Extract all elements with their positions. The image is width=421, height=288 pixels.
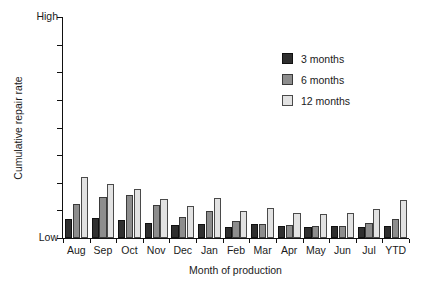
bar-may-6-months[interactable]	[312, 226, 319, 238]
bar-sep-6-months[interactable]	[99, 197, 106, 238]
bar-aug-3-months[interactable]	[65, 219, 72, 238]
x-tick-label-sep: Sep	[90, 244, 117, 256]
x-tick-label-feb: Feb	[223, 244, 250, 256]
x-tick-mark	[356, 239, 357, 243]
bar-jul-12-months[interactable]	[373, 209, 380, 238]
bar-mar-3-months[interactable]	[251, 224, 258, 238]
bar-may-12-months[interactable]	[320, 214, 327, 238]
bar-jan-3-months[interactable]	[198, 224, 205, 238]
x-tick-mark	[249, 239, 250, 243]
legend-label: 12 months	[301, 95, 350, 107]
y-tick-mark	[57, 128, 62, 129]
bar-group-mar	[251, 17, 274, 238]
x-tick-label-jun: Jun	[329, 244, 356, 256]
bar-jan-12-months[interactable]	[214, 198, 221, 238]
bar-ytd-3-months[interactable]	[384, 226, 391, 238]
x-tick-label-jan: Jan	[196, 244, 223, 256]
legend-label: 6 months	[301, 74, 344, 86]
legend-swatch-12-months	[282, 95, 293, 106]
legend-swatch-3-months	[282, 53, 293, 64]
bar-aug-12-months[interactable]	[81, 177, 88, 238]
bar-dec-6-months[interactable]	[179, 217, 186, 238]
bar-group-nov	[145, 17, 168, 238]
bar-sep-12-months[interactable]	[107, 184, 114, 238]
legend-item-6-months[interactable]: 6 months	[282, 71, 392, 88]
x-tick-mark	[409, 239, 410, 243]
bar-ytd-6-months[interactable]	[392, 219, 399, 238]
y-tick-mark	[57, 210, 62, 211]
bar-jun-6-months[interactable]	[339, 226, 346, 238]
bar-aug-6-months[interactable]	[73, 204, 80, 238]
x-tick-mark	[382, 239, 383, 243]
chart-legend: 3 months6 months12 months	[282, 50, 392, 113]
x-tick-mark	[329, 239, 330, 243]
x-axis-title: Month of production	[62, 264, 409, 276]
x-tick-label-apr: Apr	[276, 244, 303, 256]
y-axis-title: Cumulative repair rate	[12, 17, 24, 239]
x-tick-mark	[63, 239, 64, 243]
bar-group-jan	[198, 17, 221, 238]
repair-rate-bar-chart: Cumulative repair rate High Low AugSepOc…	[0, 0, 421, 288]
legend-swatch-6-months	[282, 74, 293, 85]
y-axis-high-label: High	[26, 10, 58, 22]
x-tick-mark	[116, 239, 117, 243]
y-tick-mark	[57, 155, 62, 156]
bar-apr-6-months[interactable]	[286, 225, 293, 238]
bar-nov-3-months[interactable]	[145, 223, 152, 238]
bar-feb-3-months[interactable]	[225, 227, 232, 238]
x-axis-line	[62, 238, 409, 239]
bar-nov-6-months[interactable]	[153, 205, 160, 238]
x-tick-mark	[143, 239, 144, 243]
bar-jul-6-months[interactable]	[365, 223, 372, 238]
bar-group-dec	[171, 17, 194, 238]
bar-may-3-months[interactable]	[304, 227, 311, 238]
bar-jul-3-months[interactable]	[358, 227, 365, 238]
bar-jun-12-months[interactable]	[347, 213, 354, 238]
bar-dec-12-months[interactable]	[187, 206, 194, 238]
x-tick-label-dec: Dec	[169, 244, 196, 256]
x-tick-mark	[196, 239, 197, 243]
y-tick-mark	[57, 17, 62, 18]
x-tick-mark	[169, 239, 170, 243]
x-tick-label-jul: Jul	[356, 244, 383, 256]
bar-apr-12-months[interactable]	[293, 213, 300, 238]
bar-group-oct	[118, 17, 141, 238]
x-tick-label-aug: Aug	[63, 244, 90, 256]
bar-ytd-12-months[interactable]	[400, 200, 407, 238]
bar-oct-6-months[interactable]	[126, 195, 133, 238]
x-tick-label-nov: Nov	[143, 244, 170, 256]
x-tick-mark	[303, 239, 304, 243]
bar-oct-3-months[interactable]	[118, 220, 125, 238]
bar-mar-12-months[interactable]	[267, 208, 274, 238]
bar-mar-6-months[interactable]	[259, 224, 266, 238]
bar-nov-12-months[interactable]	[160, 199, 167, 238]
x-tick-mark	[223, 239, 224, 243]
bar-group-aug	[65, 17, 88, 238]
x-tick-mark	[276, 239, 277, 243]
x-tick-label-oct: Oct	[116, 244, 143, 256]
x-tick-label-may: May	[303, 244, 330, 256]
y-tick-mark	[57, 100, 62, 101]
y-tick-mark	[57, 72, 62, 73]
bar-group-feb	[225, 17, 248, 238]
y-axis-low-label: Low	[26, 231, 58, 243]
legend-label: 3 months	[301, 53, 344, 65]
y-tick-mark	[57, 183, 62, 184]
bar-jan-6-months[interactable]	[206, 211, 213, 238]
bar-apr-3-months[interactable]	[278, 226, 285, 238]
bar-feb-12-months[interactable]	[240, 211, 247, 238]
bar-sep-3-months[interactable]	[92, 218, 99, 238]
x-tick-label-ytd: YTD	[382, 244, 409, 256]
bar-jun-3-months[interactable]	[331, 226, 338, 238]
y-tick-mark	[57, 45, 62, 46]
legend-item-12-months[interactable]: 12 months	[282, 92, 392, 109]
legend-item-3-months[interactable]: 3 months	[282, 50, 392, 67]
bar-feb-6-months[interactable]	[232, 221, 239, 238]
bar-dec-3-months[interactable]	[171, 225, 178, 238]
y-tick-mark	[57, 238, 62, 239]
x-tick-label-mar: Mar	[249, 244, 276, 256]
x-tick-mark	[90, 239, 91, 243]
bar-oct-12-months[interactable]	[134, 189, 141, 238]
bar-group-sep	[92, 17, 115, 238]
